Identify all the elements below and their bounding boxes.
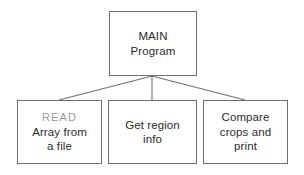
node-get-region-info-line-1: Get region (125, 118, 180, 133)
node-main-program: MAIN Program (109, 11, 197, 76)
node-main-program-line-1: MAIN (138, 29, 167, 44)
node-read-array-line-3: a file (47, 139, 72, 154)
node-main-program-line-2: Program (131, 44, 176, 59)
node-compare-crops: Compare crops and print (203, 100, 288, 164)
node-compare-crops-line-1: Compare (222, 110, 270, 125)
node-compare-crops-line-3: print (234, 139, 257, 154)
node-compare-crops-line-2: crops and (220, 125, 271, 140)
flowchart-diagram: MAIN Program READ Array from a file Get … (0, 0, 304, 175)
node-read-array: READ Array from a file (17, 100, 102, 164)
node-get-region-info: Get region info (108, 100, 197, 164)
node-read-array-line-2: Array from (32, 125, 87, 140)
node-get-region-info-line-2: info (143, 132, 162, 147)
connector-root-to-read (59, 76, 152, 100)
connector-root-to-compare (152, 76, 245, 100)
node-read-array-line-1: READ (42, 110, 77, 125)
